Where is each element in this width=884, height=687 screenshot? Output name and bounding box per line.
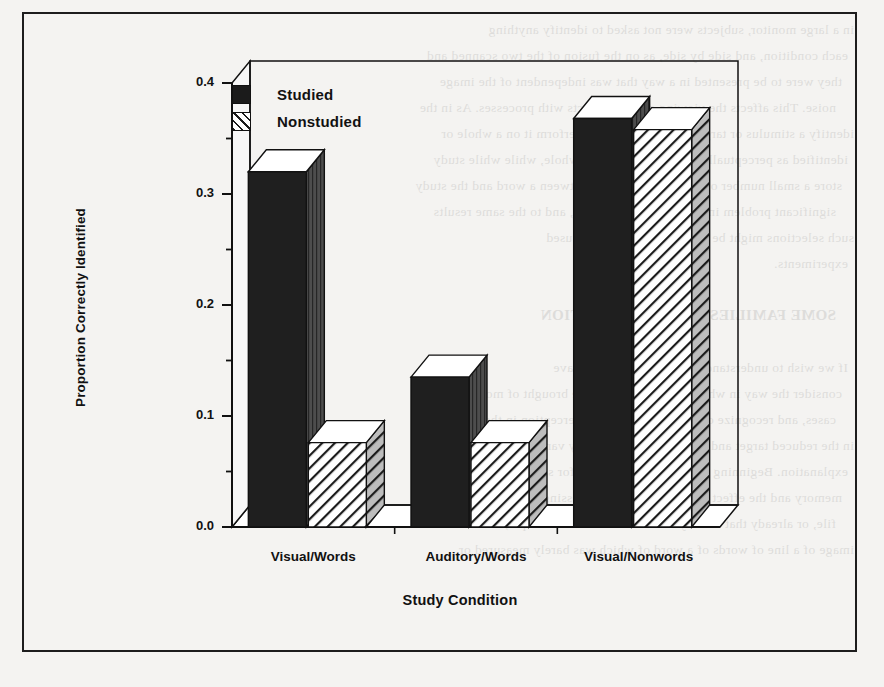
bar-visual-nonwords-studied-front (574, 119, 632, 527)
legend-item-studied: Studied (232, 82, 362, 106)
legend-item-nonstudied: Nonstudied (232, 109, 362, 133)
plot-canvas (0, 0, 884, 687)
x-axis-title: Study Condition (200, 592, 720, 608)
y-axis-title: Proportion Correctly Identified (73, 158, 88, 458)
bar-auditory-words-studied-front (411, 377, 469, 527)
bar-auditory-words-nonstudied (471, 421, 547, 527)
y-axis-tick-label: 0.1 (168, 407, 214, 422)
bar-visual-words-nonstudied-front (308, 443, 366, 527)
bar-visual-words-nonstudied (308, 421, 384, 527)
legend-label-studied: Studied (277, 86, 333, 103)
bar-auditory-words-nonstudied-front (471, 443, 529, 527)
chart-legend: Studied Nonstudied (232, 82, 362, 136)
y-axis-tick-label: 0.0 (168, 518, 214, 533)
bar-visual-nonwords-nonstudied-front (634, 130, 692, 527)
legend-swatch-nonstudied-icon (232, 112, 251, 131)
bar-visual-words-studied-front (248, 172, 306, 527)
bar-visual-nonwords-nonstudied-side (692, 108, 710, 527)
x-axis-category-label: Visual/Nonwords (539, 549, 739, 564)
legend-label-nonstudied: Nonstudied (277, 113, 362, 130)
y-axis-tick-label: 0.4 (168, 74, 214, 89)
bar-chart: Proportion Correctly Identified Study Co… (0, 0, 884, 687)
y-axis-tick-label: 0.3 (168, 185, 214, 200)
y-axis-tick-label: 0.2 (168, 296, 214, 311)
legend-swatch-studied-icon (232, 85, 251, 104)
bar-visual-nonwords-nonstudied (634, 108, 710, 527)
